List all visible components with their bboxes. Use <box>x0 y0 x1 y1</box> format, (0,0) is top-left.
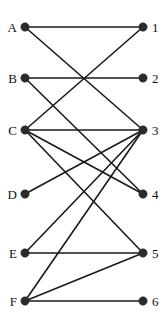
node-D <box>21 190 29 198</box>
node-4 <box>139 190 147 198</box>
node-1 <box>139 23 147 31</box>
node-label-B: B <box>8 72 17 85</box>
node-label-E: E <box>9 247 17 260</box>
node-label-5: 5 <box>152 247 159 260</box>
node-3 <box>139 126 147 134</box>
node-B <box>21 74 29 82</box>
node-2 <box>139 74 147 82</box>
node-F <box>21 297 29 305</box>
node-label-F: F <box>10 295 17 308</box>
edge-B-4 <box>25 78 143 194</box>
node-label-6: 6 <box>152 295 159 308</box>
edge-F-5 <box>25 253 143 301</box>
node-layer <box>21 23 147 305</box>
node-label-A: A <box>8 21 17 34</box>
node-6 <box>139 297 147 305</box>
edge-F-3 <box>25 130 143 301</box>
node-E <box>21 249 29 257</box>
node-label-2: 2 <box>152 72 159 85</box>
node-label-4: 4 <box>152 188 159 201</box>
node-label-1: 1 <box>152 21 159 34</box>
edge-layer <box>25 27 143 301</box>
node-label-D: D <box>8 188 17 201</box>
node-C <box>21 126 29 134</box>
node-5 <box>139 249 147 257</box>
bipartite-graph-figure: 123456ABCDEF <box>0 0 168 327</box>
node-label-C: C <box>8 124 17 137</box>
graph-canvas <box>0 0 168 327</box>
node-label-3: 3 <box>152 124 159 137</box>
node-A <box>21 23 29 31</box>
